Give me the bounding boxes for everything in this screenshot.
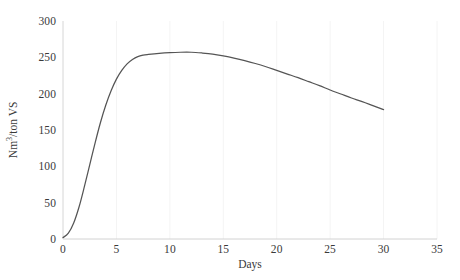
x-tick-label: 0 [60, 243, 66, 255]
y-tick-label: 50 [20, 197, 56, 209]
x-tick-label: 35 [431, 243, 443, 255]
x-tick-label: 15 [217, 243, 229, 255]
gridlines-group [63, 21, 437, 239]
y-tick-label: 150 [20, 124, 56, 136]
y-axis-title: Nm3/ton VS [5, 90, 19, 170]
x-tick-label: 30 [378, 243, 390, 255]
x-tick-label: 10 [164, 243, 176, 255]
x-axis-title: Days [238, 258, 262, 270]
x-tick-label: 20 [271, 243, 283, 255]
y-tick-label: 300 [20, 15, 56, 27]
y-tick-label: 0 [20, 233, 56, 245]
y-tick-label: 200 [20, 88, 56, 100]
plot-area [0, 0, 460, 280]
y-tick-label: 100 [20, 160, 56, 172]
x-tick-label: 25 [324, 243, 336, 255]
x-tick-label: 5 [113, 243, 119, 255]
y-tick-label: 250 [20, 51, 56, 63]
chart-container: 050100150200250300 05101520253035 Nm3/to… [0, 0, 460, 280]
